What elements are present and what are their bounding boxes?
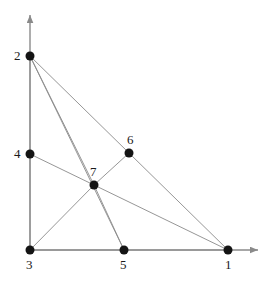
graph-figure: 1234567 [0,0,278,284]
edge-7-3 [30,185,94,250]
node-label-1: 1 [225,258,232,271]
graph-node-4[interactable] [26,150,35,159]
edge-4-7 [30,154,94,185]
graph-node-3[interactable] [26,246,35,255]
graph-node-6[interactable] [125,149,134,158]
graph-node-1[interactable] [224,246,233,255]
node-label-4: 4 [14,147,21,160]
graph-canvas [0,0,278,284]
node-label-3: 3 [26,258,33,271]
graph-node-2[interactable] [26,52,35,61]
edge-7-5 [94,185,124,250]
graph-node-7[interactable] [90,181,99,190]
graph-node-5[interactable] [120,246,129,255]
node-label-2: 2 [14,49,21,62]
node-label-6: 6 [127,133,134,146]
node-label-5: 5 [120,258,127,271]
edge-2-6 [30,56,129,153]
node-label-7: 7 [90,165,97,178]
edge-2-5 [30,56,124,250]
edge-7-1 [94,185,228,250]
edge-6-1 [129,153,228,250]
edge-7-6 [94,153,129,185]
